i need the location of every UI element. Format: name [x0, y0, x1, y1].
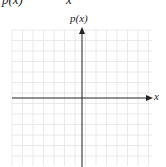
- x-axis-label: x: [154, 90, 159, 102]
- y-axis-label: p(x): [70, 12, 88, 24]
- y-axis-arrow-icon: [79, 27, 85, 34]
- blank-coordinate-grid: p(x) x p(x) x: [0, 0, 166, 167]
- plot-area: [0, 0, 166, 167]
- x-axis-arrow-icon: [146, 95, 153, 101]
